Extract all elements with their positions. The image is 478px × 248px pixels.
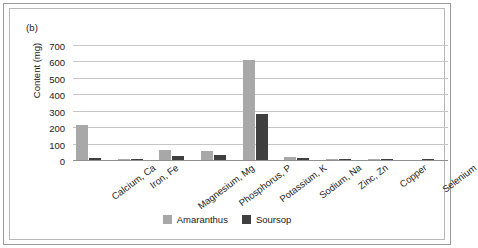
y-tick-label: 500 <box>49 73 65 84</box>
x-tick-label: Selenium <box>440 162 478 195</box>
bar <box>214 155 226 160</box>
y-tick-label: 600 <box>49 57 65 68</box>
bar-group <box>323 45 365 160</box>
bar <box>422 159 434 160</box>
y-tick-label: 200 <box>49 123 65 134</box>
bar <box>131 159 143 160</box>
y-tick-label: 0 <box>60 156 65 167</box>
bar <box>368 159 380 160</box>
bar-group <box>156 45 198 160</box>
chart-legend: AmaranthusSoursop <box>10 214 444 225</box>
y-tick-label: 400 <box>49 90 65 101</box>
bar <box>159 150 171 160</box>
legend-swatch-icon <box>242 215 251 224</box>
bar-group <box>198 45 240 160</box>
bar <box>172 156 184 160</box>
bar <box>297 158 309 160</box>
legend-swatch-icon <box>163 215 172 224</box>
legend-item: Amaranthus <box>163 214 228 225</box>
legend-label: Soursop <box>256 214 291 225</box>
bar-group <box>73 45 115 160</box>
bar-group <box>281 45 323 160</box>
chart-frame: (b) Content (mg) 0100200300400500600700 … <box>9 8 445 240</box>
bar <box>326 159 338 160</box>
legend-label: Amaranthus <box>177 214 228 225</box>
bar-group <box>365 45 407 160</box>
bar <box>89 158 101 160</box>
plot-area <box>73 46 448 161</box>
bar-group <box>115 45 157 160</box>
bar <box>118 159 130 160</box>
y-tick-label: 100 <box>49 139 65 150</box>
x-tick-label: Copper <box>397 162 429 190</box>
y-tick-label: 300 <box>49 106 65 117</box>
x-axis-tick-labels: Calcium, CaIron, FeMagnesium, MgPhosphor… <box>73 162 448 220</box>
y-axis-tick-labels: 0100200300400500600700 <box>10 46 69 161</box>
legend-item: Soursop <box>242 214 291 225</box>
y-tick-label: 700 <box>49 41 65 52</box>
bar <box>284 157 296 160</box>
bar <box>256 114 268 160</box>
bar-group <box>240 45 282 160</box>
bar <box>76 125 88 160</box>
bar <box>381 159 393 160</box>
bar <box>243 60 255 160</box>
bar <box>339 159 351 160</box>
bar-group <box>406 45 448 160</box>
x-axis-line <box>73 160 448 161</box>
bar <box>201 151 213 160</box>
